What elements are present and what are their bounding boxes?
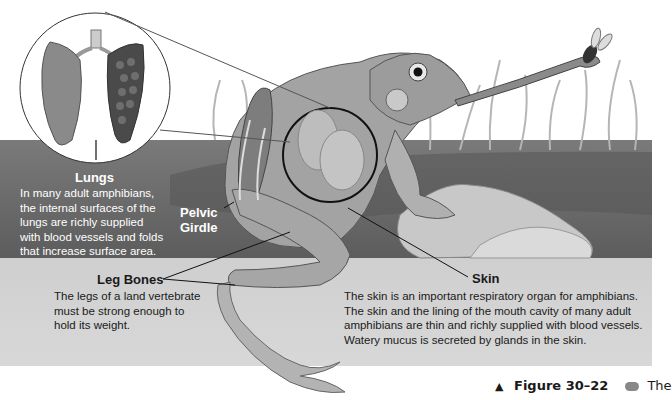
skin-description: The skin is an important respiratory org… — [344, 289, 643, 347]
skin-label: Skin — [472, 271, 499, 286]
lungs-description: In many adult amphibians, the internal s… — [20, 186, 163, 259]
figure-number: Figure 30–22 — [514, 378, 608, 393]
figure-caption: ▲ Figure 30–22 The — [495, 378, 672, 393]
key-icon — [625, 382, 639, 391]
pelvic-girdle-label: Pelvic Girdle — [180, 205, 218, 235]
triangle-marker-icon: ▲ — [495, 380, 503, 393]
leg-bones-description: The legs of a land vertebrate must be st… — [54, 289, 200, 333]
lungs-label: Lungs — [75, 170, 114, 185]
caption-text: The — [647, 378, 671, 393]
leg-bones-label: Leg Bones — [97, 272, 163, 287]
